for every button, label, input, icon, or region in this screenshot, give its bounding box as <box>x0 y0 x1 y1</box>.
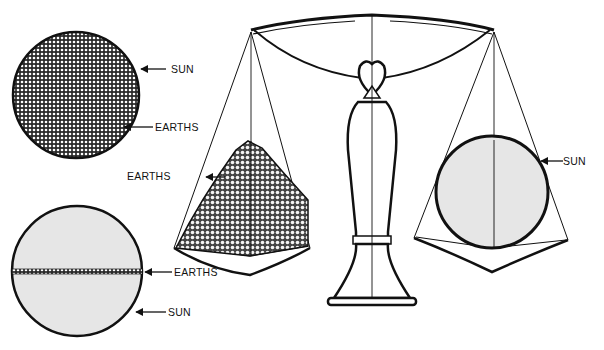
label-earths-left-pan: EARTHS <box>127 170 171 182</box>
label-earths-top-left: EARTHS <box>155 121 199 133</box>
label-sun-bottom-left: SUN <box>168 306 191 318</box>
label-earths-bottom-left: EARTHS <box>174 266 218 278</box>
earth-pile <box>176 141 308 256</box>
label-sun-top-left: SUN <box>171 63 194 75</box>
sun-earth-comparison-diagram: SUN EARTHS EARTHS EARTHS SUN SUN <box>0 0 604 350</box>
sun-on-pan <box>436 136 563 248</box>
illustration <box>0 0 604 350</box>
sun-full-of-earths <box>13 32 166 158</box>
label-sun-right-pan: SUN <box>563 155 586 167</box>
sun-with-earth-band <box>10 206 172 336</box>
